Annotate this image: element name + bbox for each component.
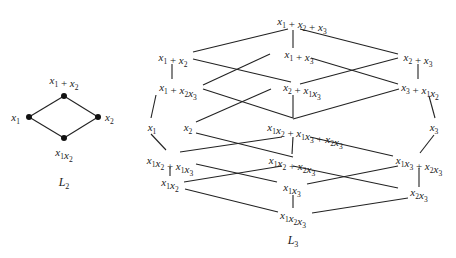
lattice-edge: [420, 135, 434, 153]
lattice-edge: [312, 198, 408, 213]
node-label-x1: x1: [147, 121, 157, 136]
lattice-edge: [203, 89, 293, 118]
node-label-x1x2: x1x2: [160, 176, 179, 194]
lattice-node-dot: [26, 114, 32, 120]
node-label-x1-plus-x2-plus-x3: x1 + x2 + x3: [276, 15, 327, 36]
node-label-bottom: x1x2: [54, 146, 73, 164]
diagram-caption-L3: L3: [287, 233, 299, 249]
lattice-edge: [292, 137, 293, 154]
node-label-left: x1: [10, 111, 20, 126]
node-label-x1x3: x1x3: [282, 181, 301, 199]
node-label-x1-plus-x2: x1 + x2: [158, 51, 188, 69]
lattice-edge: [29, 96, 64, 117]
lattice-L3-diagram: x1 + x2 + x3x1 + x2x1 + x3x2 + x3x1 + x2…: [146, 15, 443, 249]
node-label-x2-plus-x1x3: x2 + x1x3: [282, 81, 321, 102]
lattice-node-dot: [61, 93, 67, 99]
lattice-edge: [64, 117, 98, 138]
lattice-edge: [180, 137, 282, 152]
node-label-x3-plus-x1x2: x3 + x1x2: [400, 81, 439, 102]
lattice-edge: [29, 117, 64, 138]
node-label-right: x2: [104, 111, 114, 126]
lattice-edge: [196, 89, 271, 122]
lattice-edge: [203, 54, 270, 85]
lattice-edge: [185, 189, 278, 212]
lattice-edge: [151, 134, 166, 150]
lattice-figure: x1 + x2x1x2x1x2L2 x1 + x2 + x3x1 + x2x1 …: [0, 0, 456, 258]
node-label-top: x1 + x2: [49, 74, 79, 92]
lattice-edge: [196, 133, 293, 157]
lattice-edge: [193, 59, 291, 82]
lattice-L2-diagram: x1 + x2x1x2x1x2L2: [10, 74, 114, 191]
node-label-x1x2-plus-x1x3-plus-x2x3: x1x2 + x1x3 + x2x3: [266, 121, 343, 151]
node-label-x2: x2: [183, 121, 193, 136]
lattice-edge: [193, 29, 288, 52]
node-label-x3: x3: [429, 121, 439, 136]
node-label-x2x3: x2x3: [409, 186, 428, 204]
diagram-caption-L2: L2: [58, 175, 70, 191]
node-label-x1-plus-x2x3: x1 + x2x3: [158, 81, 197, 102]
lattice-node-dot: [95, 114, 101, 120]
lattice-edge: [64, 96, 98, 117]
lattice-node-dot: [61, 135, 67, 141]
node-label-x1x2x3: x1x2x3: [279, 209, 306, 230]
lattice-edge: [307, 166, 398, 184]
lattice-edge: [151, 95, 156, 118]
node-label-x1-plus-x3: x1 + x3: [284, 48, 314, 66]
node-label-x1x2-plus-x2x3: x1x2 + x2x3: [268, 154, 316, 178]
